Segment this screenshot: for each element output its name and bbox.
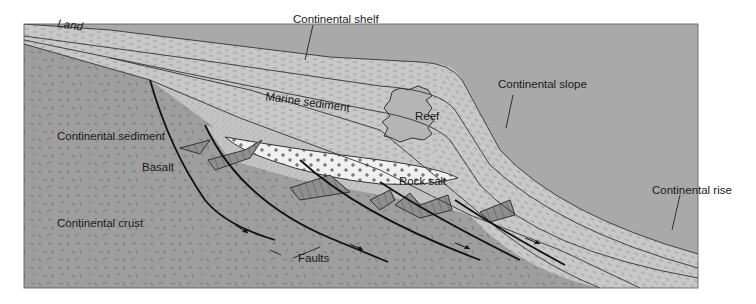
- label-rock-salt: Rock salt: [399, 175, 447, 187]
- label-continental-sediment: Continental sediment: [57, 130, 166, 142]
- label-basalt: Basalt: [142, 161, 175, 173]
- label-continental-rise: Continental rise: [652, 184, 732, 196]
- continental-margin-diagram: Land Continental shelf Continental slope…: [0, 0, 756, 304]
- label-faults: Faults: [298, 252, 330, 264]
- label-continental-crust: Continental crust: [57, 217, 144, 229]
- label-reef: Reef: [415, 110, 440, 122]
- label-continental-shelf: Continental shelf: [293, 13, 379, 25]
- label-continental-slope: Continental slope: [498, 78, 587, 90]
